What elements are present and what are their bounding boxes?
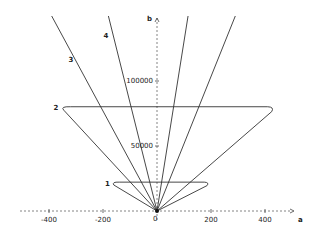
x-tick-label: 400 — [258, 216, 271, 224]
origin-label: 0 — [153, 215, 157, 223]
origin-point — [155, 209, 159, 213]
x-axis-label: a — [298, 216, 303, 224]
y-axis-label: b — [147, 15, 152, 23]
curve-2 — [63, 107, 273, 211]
x-tick-label: 200 — [204, 216, 217, 224]
series-group — [52, 16, 273, 213]
y-tick-label: 100000 — [126, 77, 153, 85]
labels-group: ab0-400-200200400500001000001234 — [41, 15, 303, 224]
y-tick-label: 50000 — [131, 142, 153, 150]
x-tick-label: -400 — [41, 216, 57, 224]
chart-plot: ab0-400-200200400500001000001234 — [0, 0, 322, 232]
axes — [20, 18, 294, 222]
curve-label-2: 2 — [54, 104, 59, 112]
curve-label-1: 1 — [105, 180, 110, 188]
curve-label-4: 4 — [104, 32, 109, 40]
x-tick-label: -200 — [95, 216, 111, 224]
curve-label-3: 3 — [68, 56, 73, 64]
x-axis-arrow-icon — [290, 209, 294, 213]
